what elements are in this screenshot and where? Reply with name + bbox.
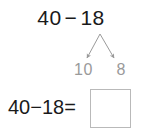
math-worksheet-problem: 40−18 10 8 40−18=	[0, 0, 142, 136]
equation-text: 40−18=	[8, 96, 76, 119]
decomposed-part-left: 10	[74, 61, 93, 79]
top-subtrahend: 18	[80, 6, 104, 29]
top-minuend: 40	[37, 6, 61, 29]
decomposed-parts: 10 8	[74, 61, 126, 79]
decomposed-part-right: 8	[117, 61, 126, 79]
top-minus-operator: −	[62, 6, 81, 29]
answer-input-box[interactable]	[90, 89, 131, 128]
top-expression: 40−18	[0, 6, 142, 30]
